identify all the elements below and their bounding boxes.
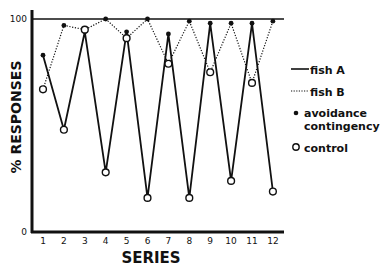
legend-avoidance: avoidance	[304, 107, 367, 120]
control-point	[249, 80, 256, 87]
y-axis-title: % RESPONSES	[8, 61, 24, 174]
legend-fish-a: fish A	[310, 64, 345, 77]
control-point	[61, 126, 68, 133]
series-line-fish-a	[43, 23, 273, 198]
control-point	[81, 26, 88, 33]
legend: fish A fish B avoidance contingency cont…	[291, 64, 380, 155]
x-tick-1: 1	[40, 236, 46, 246]
series-line-fish-b	[43, 19, 273, 89]
avoidance-point	[250, 21, 255, 26]
avoidance-point	[124, 29, 129, 34]
legend-fish-b: fish B	[310, 86, 345, 99]
legend-filled-circle-icon	[294, 111, 299, 116]
x-tick-9: 9	[207, 236, 213, 246]
avoidance-point	[166, 32, 171, 37]
legend-open-circle-icon	[293, 144, 299, 150]
x-tick-7: 7	[166, 236, 172, 246]
control-point	[270, 188, 277, 195]
control-point	[123, 35, 130, 42]
control-point	[40, 86, 47, 93]
x-tick-labels: 123456789101112	[40, 236, 278, 246]
x-tick-5: 5	[124, 236, 130, 246]
x-axis-title: SERIES	[121, 249, 180, 267]
series-lines	[43, 19, 273, 198]
avoidance-point	[187, 19, 192, 24]
control-point	[186, 195, 193, 202]
legend-control: control	[304, 142, 348, 155]
x-tick-4: 4	[103, 236, 109, 246]
x-tick-3: 3	[82, 236, 88, 246]
avoidance-point	[41, 53, 46, 58]
legend-contingency: contingency	[304, 120, 380, 133]
avoidance-point	[208, 21, 213, 26]
x-tick-8: 8	[186, 236, 192, 246]
x-tick-11: 11	[246, 236, 257, 246]
x-tick-12: 12	[267, 236, 278, 246]
avoidance-point	[229, 21, 234, 26]
avoidance-point	[271, 19, 276, 24]
control-point	[102, 169, 109, 176]
control-point	[228, 177, 235, 184]
y-tick-100: 100	[10, 14, 27, 24]
control-point	[144, 195, 151, 202]
avoidance-point	[103, 17, 108, 22]
line-chart: 100 0 123456789101112 SERIES % RESPONSES…	[0, 0, 391, 272]
x-tick-2: 2	[61, 236, 67, 246]
avoidance-point	[145, 17, 150, 22]
avoidance-point	[62, 23, 67, 28]
control-point	[207, 69, 214, 76]
x-tick-6: 6	[145, 236, 151, 246]
y-tick-0: 0	[21, 227, 27, 237]
control-point	[165, 60, 172, 67]
x-tick-10: 10	[225, 236, 237, 246]
